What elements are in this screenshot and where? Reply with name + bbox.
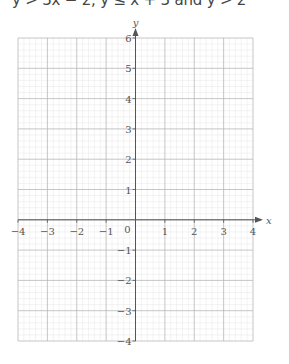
x-tick-label: −4 (11, 226, 26, 237)
x-tick-label: −2 (69, 226, 84, 237)
y-axis-label: y (132, 17, 139, 28)
origin-label: 0 (124, 224, 130, 235)
y-tick-label: 4 (125, 94, 131, 105)
x-tick-label: 2 (191, 226, 197, 237)
x-tick-label: −3 (40, 226, 55, 237)
y-tick-label: 1 (125, 185, 131, 196)
y-tick-label: −2 (117, 275, 132, 286)
x-tick-label: 3 (220, 226, 226, 237)
x-axis-label: x (266, 215, 272, 226)
y-tick-label: −3 (117, 306, 132, 317)
coordinate-grid: −4−3−2−11234654321−1−2−3−40xy (0, 0, 289, 364)
axes (18, 28, 263, 341)
y-tick-label: 3 (125, 124, 131, 135)
y-tick-label: 5 (125, 63, 131, 74)
y-tick-label: 6 (125, 33, 131, 44)
y-axis-arrow-icon (133, 28, 139, 36)
x-tick-label: 1 (162, 226, 168, 237)
x-tick-label: 4 (250, 226, 256, 237)
x-axis-arrow-icon (255, 217, 263, 223)
x-tick-label: −1 (99, 226, 114, 237)
y-tick-label: −4 (117, 336, 132, 347)
y-tick-label: −1 (117, 245, 132, 256)
y-tick-label: 2 (125, 154, 131, 165)
